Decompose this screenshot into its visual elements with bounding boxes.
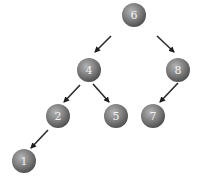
node-label: 1 [21,155,28,168]
tree-node-8: 8 [166,58,190,82]
tree-node-7: 7 [141,104,165,128]
edge-arrow-4-to-2 [64,85,80,102]
node-label: 6 [131,9,138,22]
tree-node-4: 4 [77,58,101,82]
tree-node-2: 2 [46,104,70,128]
tree-node-1: 1 [12,149,36,173]
tree-diagram: 6482571 [0,0,198,186]
edge-arrow-6-to-4 [95,36,111,52]
node-label: 7 [150,110,157,123]
tree-node-5: 5 [104,104,128,128]
tree-node-6: 6 [122,3,146,27]
node-label: 8 [175,64,182,77]
node-label: 2 [55,110,62,123]
nodes-group: 6482571 [12,3,190,173]
edge-arrow-2-to-1 [31,130,48,148]
edges-group [31,36,178,148]
edge-arrow-8-to-7 [160,83,178,102]
node-label: 5 [113,110,120,123]
node-label: 4 [86,64,93,77]
edge-arrow-6-to-8 [157,36,174,52]
edge-arrow-4-to-5 [93,84,109,102]
